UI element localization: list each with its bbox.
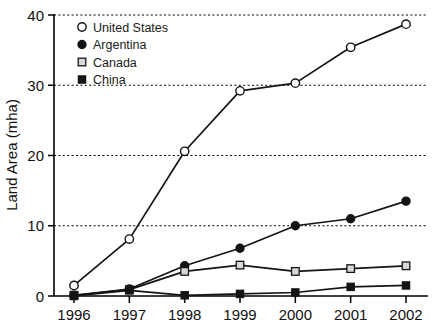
series-china-point-2002-marker — [402, 282, 409, 289]
series-china-point-2001-marker — [347, 283, 354, 290]
x-tick-label-1997: 1997 — [113, 306, 146, 323]
series-argentina-point-2000-marker — [291, 222, 299, 230]
legend-china-marker — [78, 76, 85, 83]
x-tick-label-1996: 1996 — [57, 306, 90, 323]
legend-item-argentina[interactable]: Argentina — [78, 38, 147, 52]
series-argentina — [70, 197, 410, 299]
series-china — [70, 282, 409, 300]
line-chart: 010203040 1996199719981999200020012002 L… — [0, 0, 436, 327]
legend-united-states-marker — [78, 23, 86, 31]
legend-label-united-states: United States — [93, 21, 168, 35]
series-argentina-point-2002-marker — [402, 197, 410, 205]
series-canada-point-2002-marker — [402, 262, 410, 270]
series-china-point-2000-marker — [292, 289, 299, 296]
series-canada-point-2000-marker — [292, 268, 300, 276]
series-canada-point-2001-marker — [347, 265, 355, 273]
series-united-states-point-2002-marker — [402, 20, 410, 28]
y-tick-label-0: 0 — [36, 288, 44, 305]
x-tick-label-2002: 2002 — [389, 306, 422, 323]
series-united-states-point-1998-marker — [180, 147, 188, 155]
series-china-point-1999-marker — [236, 290, 243, 297]
legend-argentina-marker — [78, 41, 86, 49]
y-tick-label-20: 20 — [27, 147, 44, 164]
legend-canada-marker — [78, 58, 86, 66]
series-united-states-point-2000-marker — [291, 79, 299, 87]
y-tick-label-30: 30 — [27, 77, 44, 94]
series-china-point-1996-marker — [70, 292, 77, 299]
series-canada-point-1999-marker — [236, 261, 244, 269]
series-united-states-point-1999-marker — [236, 87, 244, 95]
series-united-states-point-1997-marker — [125, 235, 133, 243]
series-canada-point-1998-marker — [181, 268, 189, 276]
legend: United StatesArgentinaCanadaChina — [78, 21, 168, 88]
legend-label-canada: Canada — [93, 56, 137, 70]
x-axis-tick-labels: 1996199719981999200020012002 — [57, 306, 422, 323]
series-china-point-1997-marker — [126, 287, 133, 294]
y-axis-title: Land Area (mha) — [3, 99, 20, 211]
series-united-states-point-1996-marker — [70, 281, 78, 289]
series-china-point-1998-marker — [181, 292, 188, 299]
y-axis-tick-labels: 010203040 — [27, 7, 44, 305]
x-tick-label-1998: 1998 — [168, 306, 201, 323]
x-tick-label-1999: 1999 — [223, 306, 256, 323]
legend-item-united-states[interactable]: United States — [78, 21, 168, 35]
x-tick-label-2001: 2001 — [334, 306, 367, 323]
legend-item-canada[interactable]: Canada — [78, 56, 137, 70]
series-united-states-point-2001-marker — [346, 43, 354, 51]
series-argentina-point-2001-marker — [347, 215, 355, 223]
series-argentina-point-1999-marker — [236, 244, 244, 252]
y-tick-label-10: 10 — [27, 217, 44, 234]
legend-label-argentina: Argentina — [93, 38, 147, 52]
legend-label-china: China — [93, 73, 126, 87]
y-axis-ticks — [48, 15, 54, 296]
x-tick-label-2000: 2000 — [279, 306, 312, 323]
chart-container: 010203040 1996199719981999200020012002 L… — [0, 0, 436, 327]
y-tick-label-40: 40 — [27, 7, 44, 24]
